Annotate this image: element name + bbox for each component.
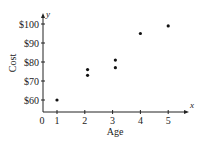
y-tick-label: $100: [19, 19, 39, 30]
x-tick-label: 1: [55, 115, 60, 126]
x-tick-label: 4: [138, 115, 143, 126]
x-tick-label: 5: [166, 115, 171, 126]
x-axis-variable: x: [189, 100, 194, 110]
y-tick-label: $80: [24, 57, 39, 68]
data-point: [139, 32, 142, 35]
data-point: [86, 68, 89, 71]
y-axis-arrow-icon: [41, 13, 45, 18]
y-axis-title: Cost: [7, 54, 18, 73]
y-axis-variable: y: [45, 9, 50, 19]
scatter-chart: xy123450$60$70$80$90$100AgeCost: [0, 0, 198, 142]
y-tick-label: $70: [24, 76, 39, 87]
x-axis-title: Age: [107, 126, 124, 137]
plot-area: xy123450$60$70$80$90$100AgeCost: [0, 0, 198, 142]
y-tick-label: $60: [24, 95, 39, 106]
x-tick-label: 2: [82, 115, 87, 126]
data-point: [114, 59, 117, 62]
x-axis-arrow-icon: [184, 110, 189, 114]
y-tick-label: $90: [24, 38, 39, 49]
x-tick-label: 3: [110, 115, 115, 126]
data-point: [55, 98, 58, 101]
data-point: [114, 66, 117, 69]
origin-label: 0: [40, 115, 45, 126]
data-point: [86, 74, 89, 77]
data-point: [167, 24, 170, 27]
